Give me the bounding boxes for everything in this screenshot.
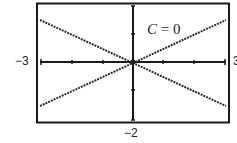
graph-canvas xyxy=(0,0,237,143)
annotation-variable: C xyxy=(147,21,157,37)
origin-point xyxy=(131,60,136,65)
x-max-label: 3 xyxy=(233,55,237,67)
x-min-label: −3 xyxy=(15,55,29,67)
y-min-label: −2 xyxy=(124,127,138,139)
curve-annotation: C = 0 xyxy=(147,22,180,37)
annotation-value: = 0 xyxy=(157,21,180,37)
